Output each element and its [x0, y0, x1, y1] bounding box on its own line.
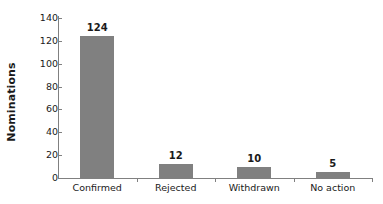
y-tick-label-wrap: 120	[28, 36, 58, 46]
x-category-label: Confirmed	[73, 182, 122, 193]
y-tick-label: 0	[34, 173, 58, 183]
y-tick-label: 60	[34, 104, 58, 114]
x-category-label: No action	[310, 182, 355, 193]
bar	[80, 36, 114, 178]
bars-layer	[58, 18, 372, 178]
y-axis-title: Nominations	[0, 0, 22, 204]
y-tick-label: 140	[34, 13, 58, 23]
x-tick-mark	[215, 178, 216, 182]
x-tick-mark	[372, 178, 373, 182]
bar	[316, 172, 350, 178]
y-tick-label-wrap: 40	[28, 127, 58, 137]
y-tick-mark	[58, 178, 62, 179]
bar	[237, 167, 271, 178]
x-category-label: Withdrawn	[229, 182, 280, 193]
bar-value-label: 10	[247, 153, 261, 164]
bar-chart: Nominations 020406080100120140 12412105 …	[0, 0, 383, 204]
y-tick-label-wrap: 60	[28, 104, 58, 114]
y-tick-label-wrap: 80	[28, 82, 58, 92]
x-tick-mark	[137, 178, 138, 182]
y-tick-label: 20	[34, 150, 58, 160]
y-tick-label-wrap: 0	[28, 173, 58, 183]
y-tick-label: 120	[34, 36, 58, 46]
x-tick-mark	[294, 178, 295, 182]
bar-value-label: 5	[329, 158, 336, 169]
y-tick-label: 80	[34, 82, 58, 92]
x-category-label: Rejected	[155, 182, 196, 193]
y-tick-label: 40	[34, 127, 58, 137]
y-tick-label: 100	[34, 59, 58, 69]
bar-value-label: 124	[87, 22, 108, 33]
y-tick-label-wrap: 20	[28, 150, 58, 160]
y-tick-label-wrap: 140	[28, 13, 58, 23]
y-tick-label-wrap: 100	[28, 59, 58, 69]
bar	[159, 164, 193, 178]
bar-value-label: 12	[169, 150, 183, 161]
